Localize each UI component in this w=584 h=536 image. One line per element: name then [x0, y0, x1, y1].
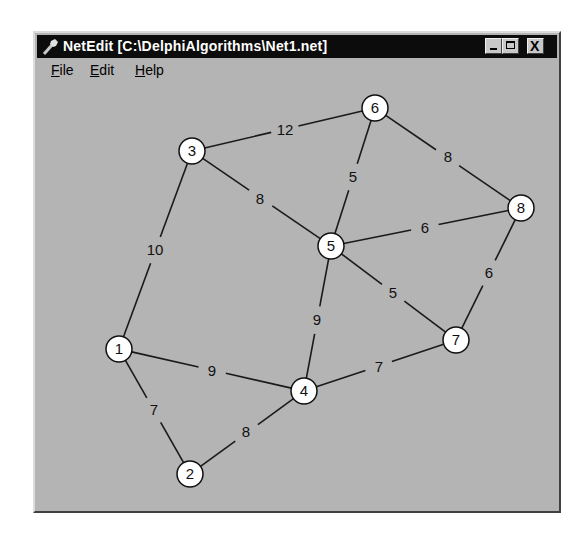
edge-weight-label: 5: [349, 168, 357, 185]
node-6[interactable]: 6: [362, 95, 388, 121]
edge-8-7[interactable]: 6: [462, 220, 516, 329]
node-5[interactable]: 5: [318, 233, 344, 259]
edge-weight-label: 9: [208, 362, 216, 379]
edge-1-2[interactable]: 7: [125, 360, 183, 462]
edge-5-7[interactable]: 5: [341, 254, 445, 332]
edge-3-6[interactable]: 12: [205, 111, 363, 148]
node-label: 6: [371, 99, 379, 116]
edge-2-4[interactable]: 8: [201, 399, 294, 467]
edge-weight-label: 6: [485, 264, 493, 281]
node-label: 1: [115, 340, 123, 357]
edge-6-8[interactable]: 8: [386, 115, 511, 200]
edge-5-8[interactable]: 6: [344, 211, 509, 244]
node-label: 2: [186, 465, 194, 482]
edge-weight-label: 8: [242, 423, 250, 440]
node-4[interactable]: 4: [291, 378, 317, 404]
node-3[interactable]: 3: [179, 138, 205, 164]
edge-3-1[interactable]: 10: [123, 163, 187, 337]
node-label: 8: [517, 199, 525, 216]
node-label: 4: [300, 382, 308, 399]
edge-weight-label: 9: [313, 311, 321, 328]
edge-weight-label: 7: [150, 401, 158, 418]
edge-weight-label: 8: [444, 148, 452, 165]
edge-3-5[interactable]: 8: [203, 158, 321, 238]
node-label: 5: [327, 237, 335, 254]
edge-weight-label: 7: [375, 358, 383, 375]
edge-6-5[interactable]: 5: [335, 120, 371, 233]
node-1[interactable]: 1: [106, 336, 132, 362]
edge-weight-label: 12: [277, 121, 294, 138]
node-8[interactable]: 8: [508, 195, 534, 221]
edge-1-4[interactable]: 9: [132, 352, 292, 388]
edge-weight-label: 6: [421, 219, 429, 236]
edge-5-4[interactable]: 9: [306, 259, 328, 378]
node-7[interactable]: 7: [443, 327, 469, 353]
edge-weight-label: 8: [256, 190, 264, 207]
edge-4-7[interactable]: 7: [316, 344, 443, 387]
network-canvas[interactable]: 12810586596978712345678: [0, 0, 584, 536]
node-label: 7: [452, 331, 460, 348]
node-2[interactable]: 2: [177, 461, 203, 487]
node-label: 3: [188, 142, 196, 159]
edge-weight-label: 5: [389, 284, 397, 301]
edge-weight-label: 10: [147, 241, 164, 258]
